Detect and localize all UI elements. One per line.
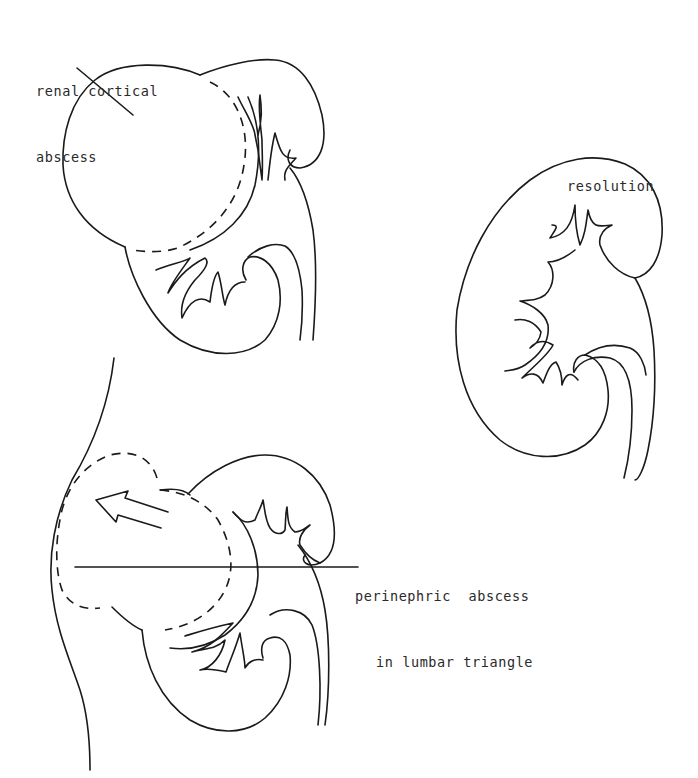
resolved-ureter-inner bbox=[574, 357, 632, 478]
perinephric-abscess-panel bbox=[51, 358, 358, 770]
kidney-lower-pole bbox=[125, 247, 280, 354]
body-wall-outline bbox=[51, 358, 114, 770]
label-line: renal cortical bbox=[36, 80, 158, 102]
resolved-lower-calyces bbox=[515, 320, 578, 386]
pn-solid-bottom-edge bbox=[112, 607, 142, 630]
migration-arrow-icon bbox=[96, 491, 168, 528]
resolved-mid-calyces bbox=[505, 250, 575, 371]
label-line: in lumbar triangle bbox=[355, 651, 533, 673]
abscess-core-dashed bbox=[160, 490, 231, 630]
upper-calyx-notch bbox=[268, 133, 296, 180]
lower-calyces bbox=[156, 258, 245, 318]
pn-ureter-inner bbox=[270, 610, 320, 725]
perinephric-abscess-dashed bbox=[57, 453, 157, 608]
resolved-ureter-outer bbox=[635, 278, 655, 480]
label-perinephric-abscess: perinephric abscess in lumbar triangle bbox=[355, 541, 533, 695]
pn-kidney-lower-pole bbox=[142, 630, 290, 731]
pn-upper-calyces bbox=[233, 500, 320, 563]
label-line: perinephric abscess bbox=[355, 585, 533, 607]
label-renal-cortical-abscess: renal cortical abscess bbox=[36, 36, 158, 190]
pn-ureter-outer bbox=[298, 545, 329, 725]
abscess-top-edge bbox=[160, 489, 190, 495]
abscess-inner-wall bbox=[190, 97, 259, 250]
label-resolution: resolution bbox=[567, 131, 654, 219]
label-line: abscess bbox=[36, 146, 158, 168]
label-line: resolution bbox=[567, 175, 654, 197]
